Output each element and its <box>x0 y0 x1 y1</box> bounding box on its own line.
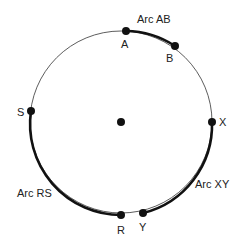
point-y-label: Y <box>139 221 147 233</box>
point-y <box>139 209 147 217</box>
point-a-label: A <box>121 38 129 50</box>
point-x-label: X <box>219 116 227 128</box>
circle-diagram: Arc AB Arc XY Arc RS A B S X R Y <box>0 0 239 247</box>
arc-ab-label: Arc AB <box>137 13 171 25</box>
arc-rs <box>30 111 121 215</box>
point-x <box>208 118 216 126</box>
point-b-label: B <box>166 52 173 64</box>
point-s-label: S <box>17 106 24 118</box>
point-a <box>122 27 130 35</box>
arc-rs-label: Arc RS <box>17 187 52 199</box>
arc-xy-label: Arc XY <box>195 178 230 190</box>
point-r-label: R <box>117 224 125 236</box>
point-r <box>117 211 125 219</box>
arc-xy <box>143 122 212 213</box>
point-b <box>171 42 179 50</box>
point-s <box>27 107 35 115</box>
center-point <box>117 118 125 126</box>
